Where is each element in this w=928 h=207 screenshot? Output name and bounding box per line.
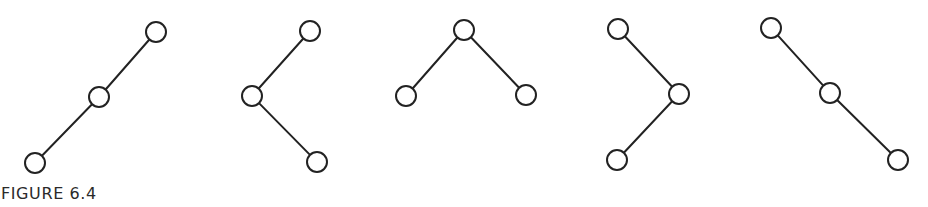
tree-edge (837, 100, 891, 153)
tree-node (888, 150, 908, 170)
tree-edge (42, 104, 92, 156)
tree-node (608, 19, 628, 39)
tree-5 (761, 18, 908, 170)
tree-edge (471, 37, 519, 88)
tree-node (454, 20, 474, 40)
tree-node (669, 84, 689, 104)
tree-node (307, 152, 327, 172)
tree-node (516, 85, 536, 105)
tree-1 (25, 22, 166, 173)
tree-edge (259, 103, 310, 155)
tree-node (607, 150, 627, 170)
tree-edge (625, 36, 672, 86)
tree-edge (624, 101, 672, 152)
binary-trees-figure (0, 0, 928, 207)
tree-4 (607, 19, 689, 170)
tree-node (820, 83, 840, 103)
tree-node (25, 153, 45, 173)
tree-node (242, 86, 262, 106)
tree-node (300, 21, 320, 41)
tree-edge (106, 40, 150, 90)
tree-edge (259, 38, 304, 88)
tree-node (146, 22, 166, 42)
tree-2 (242, 21, 327, 172)
tree-3 (396, 20, 536, 106)
tree-edge (413, 38, 458, 89)
tree-node (396, 86, 416, 106)
figure-caption: FIGURE 6.4 (1, 184, 97, 204)
tree-edge (778, 35, 824, 85)
tree-node (761, 18, 781, 38)
tree-node (89, 87, 109, 107)
